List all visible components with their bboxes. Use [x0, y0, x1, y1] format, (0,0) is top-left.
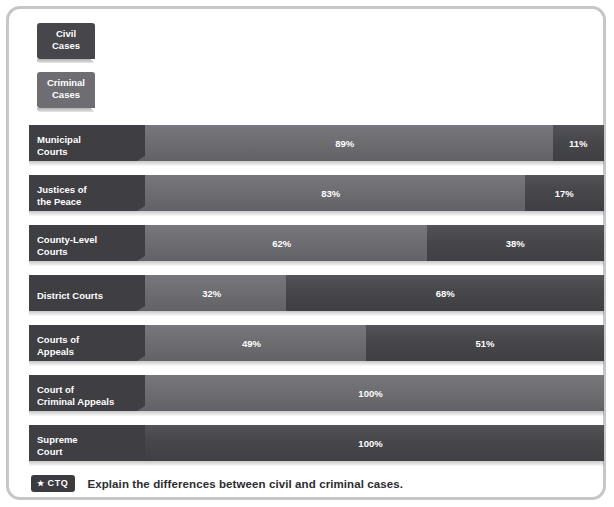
bar-row-label-line: District Courts — [37, 290, 103, 302]
bar-segment-criminal: 89% — [137, 125, 553, 161]
bar-segment-criminal: 83% — [137, 175, 525, 211]
bar-row-label-line: Criminal Appeals — [37, 396, 114, 408]
bar-segment-civil: 38% — [427, 225, 604, 261]
bar-segment-value: 17% — [555, 188, 574, 199]
bar-segment-value: 49% — [242, 338, 261, 349]
bar-segment-civil: 100% — [137, 425, 604, 461]
legend-label-civil: CivilCases — [41, 28, 91, 52]
bar-row: Justices ofthe Peace83%17% — [29, 175, 604, 211]
bar-track: Justices ofthe Peace83%17% — [29, 175, 604, 211]
bar-row-label-text: Justices ofthe Peace — [37, 184, 87, 208]
bar-row-label: MunicipalCourts — [29, 125, 137, 161]
legend-swatch-criminal: CriminalCases — [37, 72, 95, 108]
bar-row: SupremeCourt100% — [29, 425, 604, 461]
bar-track: County-LevelCourts62%38% — [29, 225, 604, 261]
chart-frame-border: CivilCasesCriminalCases MunicipalCourts8… — [6, 6, 606, 500]
bar-row-label-line: Appeals — [37, 346, 79, 358]
ctq-footer: ★ CTQ Explain the differences between ci… — [31, 475, 606, 492]
bar-row-label-line: Courts — [37, 246, 97, 258]
bar-row-label-text: SupremeCourt — [37, 434, 78, 458]
bar-row-label: Courts ofAppeals — [29, 325, 137, 361]
bar-row: Courts ofAppeals49%51% — [29, 325, 604, 361]
bar-segment-value: 38% — [506, 238, 525, 249]
bar-row-label-text: Courts ofAppeals — [37, 334, 79, 358]
legend-item-criminal: CriminalCases — [37, 72, 95, 108]
bar-row-label: Justices ofthe Peace — [29, 175, 137, 211]
chart-content: CivilCasesCriminalCases MunicipalCourts8… — [29, 23, 604, 493]
bar-row-label-line: Courts of — [37, 334, 79, 346]
bar-segment-civil: 68% — [286, 275, 604, 311]
bar-segment-value: 11% — [569, 138, 588, 149]
ctq-badge: ★ CTQ — [31, 475, 75, 492]
bar-row-label-text: MunicipalCourts — [37, 134, 81, 158]
bar-segment-value: 62% — [272, 238, 291, 249]
bar-row: MunicipalCourts89%11% — [29, 125, 604, 161]
legend-item-civil: CivilCases — [37, 23, 95, 59]
bar-row-label: Court ofCriminal Appeals — [29, 375, 137, 411]
bar-segment-criminal: 32% — [137, 275, 286, 311]
bar-segment-value: 51% — [475, 338, 494, 349]
bar-chart-rows: MunicipalCourts89%11%Justices ofthe Peac… — [29, 125, 604, 475]
bar-row: District Courts32%68% — [29, 275, 604, 311]
ctq-prompt-text: Explain the differences between civil an… — [87, 478, 403, 490]
bar-row-label-line: Court — [37, 446, 78, 458]
bar-row-label-text: District Courts — [37, 290, 103, 302]
chart-legend: CivilCasesCriminalCases — [37, 23, 257, 121]
bar-row: Court ofCriminal Appeals100% — [29, 375, 604, 411]
bar-segment-civil: 17% — [525, 175, 604, 211]
bar-segment-value: 83% — [321, 188, 340, 199]
bar-row-label-text: County-LevelCourts — [37, 234, 97, 258]
bar-track: District Courts32%68% — [29, 275, 604, 311]
bar-row-label-line: the Peace — [37, 196, 87, 208]
bar-row-label-line: Supreme — [37, 434, 78, 446]
legend-label-line: Civil — [41, 28, 91, 40]
bar-row-label-line: Court of — [37, 384, 114, 396]
bar-row-label-line: Justices of — [37, 184, 87, 196]
bar-segment-value: 100% — [358, 438, 382, 449]
bar-track: Court ofCriminal Appeals100% — [29, 375, 604, 411]
bar-segment-value: 89% — [335, 138, 354, 149]
bar-segment-civil: 51% — [366, 325, 604, 361]
bar-row-label-text: Court ofCriminal Appeals — [37, 384, 114, 408]
bar-segment-criminal: 49% — [137, 325, 366, 361]
bar-row-label-line: Municipal — [37, 134, 81, 146]
bar-row-label-line: County-Level — [37, 234, 97, 246]
ctq-badge-label: CTQ — [48, 478, 69, 489]
bar-segment-criminal: 100% — [137, 375, 604, 411]
bar-row: County-LevelCourts62%38% — [29, 225, 604, 261]
legend-label-line: Criminal — [41, 77, 91, 89]
bar-track: Courts ofAppeals49%51% — [29, 325, 604, 361]
bar-segment-value: 32% — [202, 288, 221, 299]
chart-page: CivilCasesCriminalCases MunicipalCourts8… — [0, 0, 614, 507]
legend-label-criminal: CriminalCases — [41, 77, 91, 101]
bar-row-label: County-LevelCourts — [29, 225, 137, 261]
bar-track: MunicipalCourts89%11% — [29, 125, 604, 161]
legend-label-line: Cases — [41, 40, 91, 52]
bar-row-label: District Courts — [29, 275, 137, 311]
bar-segment-civil: 11% — [553, 125, 604, 161]
bar-track: SupremeCourt100% — [29, 425, 604, 461]
bar-segment-value: 100% — [358, 388, 382, 399]
legend-swatch-civil: CivilCases — [37, 23, 95, 59]
bar-row-label: SupremeCourt — [29, 425, 137, 461]
bar-segment-criminal: 62% — [137, 225, 427, 261]
star-icon: ★ — [37, 480, 45, 488]
bar-segment-value: 68% — [436, 288, 455, 299]
bar-row-label-line: Courts — [37, 146, 81, 158]
legend-label-line: Cases — [41, 89, 91, 101]
